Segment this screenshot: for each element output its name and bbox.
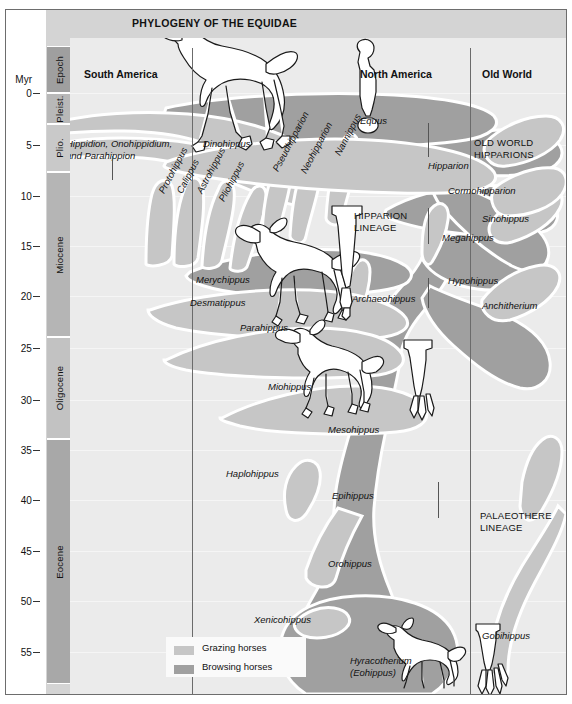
legend-swatch [174,665,194,674]
taxon-label: Mesohippus [328,424,379,435]
lineage-group-label: OLD WORLD HIPPARIONS [474,137,534,160]
epoch-strip: EpochPleist.Plio.MioceneOligoceneEocene [47,10,70,694]
epoch-label: Oligocene [53,366,64,411]
taxon-label: Anchitherium [482,300,537,311]
legend-label: Grazing horses [202,642,266,653]
myr-tick-mark [33,601,40,602]
taxon-label: Epihippus [332,490,374,501]
myr-tick-mark [33,348,40,349]
taxon-label: Cormohipparion [448,185,516,196]
lineage-group-label: PALAEOTHERE LINEAGE [480,510,552,533]
taxon-label: Haplohippus [226,468,279,479]
myr-tick-mark [33,145,40,146]
myr-tick-mark [33,450,40,451]
taxon-label: Hypohippus [448,275,498,286]
taxon-label: Xenicohippus [254,614,311,625]
taxon-label: Dinohippus [203,138,251,149]
leader-line-anchitherium [428,278,429,308]
leader-line-sinohippus [428,208,429,244]
myr-tick-mark [33,652,40,653]
plot-area: PHYLOGENY OF THE EQUIDAE South AmericaNo… [70,10,566,694]
epoch-band: Plio. [47,124,70,172]
column-header-south-america: South America [84,68,158,80]
legend-swatch [174,646,194,655]
column-header-north-america: North America [360,68,432,80]
myr-tick-label: 45 [21,546,32,557]
legend: Grazing horsesBrowsing horses [166,637,306,677]
taxon-label: Merychippus [196,274,250,285]
myr-tick-label: 30 [21,395,32,406]
myr-tick-label: 15 [21,241,32,252]
myr-tick-label: 50 [21,596,32,607]
myr-tick-mark [33,551,40,552]
taxon-label: Archaeohippus [352,293,415,304]
myr-tick-mark [33,296,40,297]
epoch-label: Miocene [53,236,64,273]
taxon-label: Equus [360,115,387,126]
myr-axis-title: Myr [15,74,32,85]
myr-tick-label: 5 [26,140,32,151]
myr-tick-label: 40 [21,495,32,506]
phylogeny-figure: Myr 0510152025303540455055 EpochPleist.P… [0,0,572,704]
legend-label: Browsing horses [202,661,272,672]
myr-tick-label: 0 [26,88,32,99]
myr-tick-label: 10 [21,191,32,202]
epoch-band: Oligocene [47,337,70,439]
lineage-group-label: HIPPARION LINEAGE [354,210,407,233]
title-bar: PHYLOGENY OF THE EQUIDAE [70,10,566,38]
epoch-band: Pleist. [47,93,70,124]
phylogeny-tree-graphic [70,10,566,694]
myr-tick-mark [33,400,40,401]
myr-tick-label: 20 [21,291,32,302]
epoch-band: Eocene [47,439,70,684]
taxon-label: Hipparion [428,160,469,171]
epoch-band: Miocene [47,172,70,337]
leader-line-old-world-hipparions [428,123,429,157]
epoch-label: Plio. [53,138,64,157]
myr-tick-mark [33,500,40,501]
leader-line-palaeothere [438,482,439,518]
taxon-label: Gobihippus [482,630,530,641]
taxon-label: Desmatippus [190,297,245,308]
myr-axis: Myr 0510152025303540455055 [6,10,46,694]
epoch-label: Pleist. [53,95,64,122]
column-header-old-world: Old World [482,68,532,80]
taxon-label: Sinohippus [482,213,529,224]
myr-tick-label: 25 [21,343,32,354]
region-divider [470,48,471,694]
figure-title: PHYLOGENY OF THE EQUIDAE [132,17,297,29]
leader-line-hippidion [112,156,113,180]
myr-tick-mark [33,246,40,247]
myr-tick-label: 55 [21,647,32,658]
myr-tick-label: 35 [21,445,32,456]
taxon-label: Parahippus [240,322,288,333]
epoch-label: Eocene [53,545,64,578]
epoch-band: Epoch [47,46,70,93]
taxon-label: Miohippus [268,381,311,392]
epoch-label: Epoch [53,56,64,84]
taxon-label: Orohippus [328,558,372,569]
taxon-label: Megahippus [442,232,494,243]
taxon-label: Hyracotherium (Eohippus) [350,655,490,679]
myr-tick-mark [33,196,40,197]
myr-tick-mark [33,93,40,94]
